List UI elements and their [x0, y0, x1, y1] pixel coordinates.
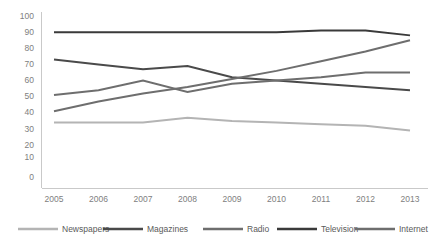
chart-legend: NewspapersMagazinesRadioTelevisionIntern…	[18, 224, 428, 234]
series-lines	[54, 31, 410, 131]
legend-label-internet: Internet	[399, 224, 428, 234]
series-line-newspapers	[54, 118, 410, 131]
y-tick-90: 90	[25, 27, 35, 37]
x-tick-2011: 2011	[312, 194, 331, 204]
series-line-television	[54, 31, 410, 36]
y-tick-50: 50	[25, 91, 35, 101]
line-chart: 0102030405060708090100 20052006200720082…	[0, 0, 435, 243]
y-tick-70: 70	[25, 59, 35, 69]
series-line-internet	[54, 40, 410, 111]
series-line-magazines	[54, 60, 410, 91]
legend-label-radio: Radio	[247, 224, 269, 234]
y-tick-60: 60	[25, 75, 35, 85]
x-tick-2006: 2006	[89, 194, 108, 204]
y-tick-20: 20	[25, 140, 35, 150]
x-tick-2013: 2013	[401, 194, 420, 204]
y-tick-30: 30	[25, 124, 35, 134]
y-tick-80: 80	[25, 43, 35, 53]
y-tick-0: 0	[29, 172, 34, 182]
legend-label-newspapers: Newspapers	[62, 224, 109, 234]
x-tick-2005: 2005	[45, 194, 64, 204]
x-tick-2012: 2012	[356, 194, 375, 204]
series-line-radio	[54, 73, 410, 96]
x-axis-tick-labels: 200520062007200820092010201120122013	[45, 194, 420, 204]
chart-canvas: 0102030405060708090100 20052006200720082…	[0, 0, 435, 243]
y-tick-40: 40	[25, 107, 35, 117]
legend-label-magazines: Magazines	[147, 224, 188, 234]
y-tick-10: 10	[25, 152, 35, 162]
y-tick-100: 100	[20, 11, 34, 21]
y-axis-tick-labels: 0102030405060708090100	[20, 11, 34, 182]
x-tick-2008: 2008	[178, 194, 197, 204]
x-tick-2010: 2010	[267, 194, 286, 204]
x-tick-2007: 2007	[134, 194, 153, 204]
legend-label-television: Television	[321, 224, 359, 234]
x-tick-2009: 2009	[223, 194, 242, 204]
